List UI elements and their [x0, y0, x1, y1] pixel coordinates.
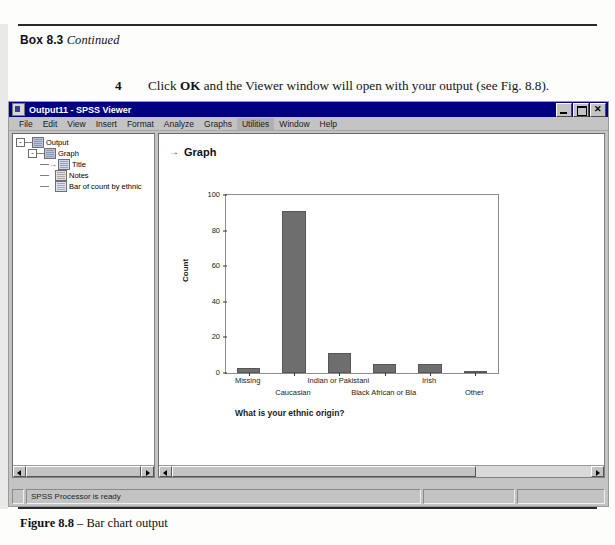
step-text-a: Click: [148, 78, 180, 93]
chart-y-tick: [223, 373, 227, 374]
menu-help[interactable]: Help: [315, 118, 342, 130]
outline-scroll-left-button[interactable]: [13, 466, 26, 477]
minimize-icon: [557, 104, 571, 116]
tree-item-bar-chart[interactable]: Bar of count by ethnic: [16, 181, 152, 192]
tree-item-notes[interactable]: Notes: [16, 170, 152, 181]
chart-y-tick: [223, 230, 227, 231]
chart-y-tick-label: 40: [212, 296, 220, 305]
figure-caption: Figure 8.8 – Bar chart output: [20, 516, 168, 531]
tree-item-title[interactable]: → Title: [16, 159, 152, 170]
box-state: Continued: [67, 33, 120, 47]
close-icon: ✕: [591, 104, 605, 116]
figure-caption-text: – Bar chart output: [74, 516, 168, 530]
step-text-c: and the Viewer window will open with you…: [200, 78, 549, 93]
outline-tree[interactable]: - Output - Graph →: [13, 134, 154, 465]
status-cell-indicator: [12, 489, 24, 504]
output-canvas[interactable]: → Graph Count 020406080100 MissingCaucas…: [159, 134, 604, 465]
status-cell-tertiary: [517, 489, 605, 504]
tree-label-notes: Notes: [69, 171, 89, 180]
outline-pane[interactable]: - Output - Graph →: [12, 133, 155, 478]
title-item-icon: [58, 159, 70, 170]
expander-graph[interactable]: -: [28, 149, 37, 158]
window-titlebar[interactable]: Output11 - SPSS Viewer ✕: [9, 102, 608, 117]
chart-plot-area: [225, 194, 499, 374]
figure-caption-label: Figure 8.8: [20, 516, 74, 530]
graph-book-icon: [44, 148, 56, 159]
chart-x-tick-label: Indian or Pakistani: [307, 376, 369, 385]
viewer-workarea: - Output - Graph →: [12, 133, 605, 478]
menu-edit[interactable]: Edit: [38, 118, 63, 130]
outline-scroll-thumb[interactable]: [26, 466, 141, 477]
tree-item-output[interactable]: - Output: [16, 137, 152, 148]
chart-y-axis-label: Count: [181, 259, 190, 282]
tree-item-graph[interactable]: - Graph: [16, 148, 152, 159]
box-bottom-rule: [18, 507, 597, 509]
menu-bar[interactable]: File Edit View Insert Format Analyze Gra…: [9, 117, 608, 131]
content-scroll-right-button[interactable]: [591, 466, 604, 477]
menu-file[interactable]: File: [14, 118, 38, 130]
chart-x-tick-label: Irish: [422, 376, 436, 385]
chart-x-tick-label: Missing: [235, 376, 260, 385]
window-title: Output11 - SPSS Viewer: [29, 105, 131, 115]
outline-scroll-track[interactable]: [26, 466, 141, 477]
chart-x-tick-label: Other: [465, 388, 484, 397]
menu-insert[interactable]: Insert: [91, 118, 122, 130]
menu-utilities[interactable]: Utilities: [237, 118, 274, 130]
chart-y-tick-label: 80: [212, 225, 220, 234]
bar-chart[interactable]: Count 020406080100 MissingCaucasianIndia…: [179, 186, 509, 436]
menu-analyze[interactable]: Analyze: [159, 118, 199, 130]
graph-heading: → Graph: [169, 146, 216, 158]
chart-x-tick-label: Black African or Bla: [351, 388, 416, 397]
box-label: Box 8.3: [20, 33, 63, 47]
window-controls[interactable]: ✕: [556, 103, 606, 117]
minimize-button[interactable]: [556, 103, 572, 117]
outline-scroll-right-button[interactable]: [141, 466, 154, 477]
tree-connector: [40, 164, 49, 165]
chart-bar: [418, 364, 442, 373]
chart-x-tick: [385, 373, 386, 376]
tree-label-bar-chart: Bar of count by ethnic: [69, 182, 142, 191]
book-page: Box 8.3 Continued 4 Click OK and the Vie…: [0, 0, 615, 545]
chart-bar: [373, 364, 397, 373]
step-text-ok: OK: [180, 78, 201, 93]
chart-y-tick-label: 0: [216, 368, 220, 377]
content-horizontal-scrollbar[interactable]: [159, 465, 604, 477]
page-left-margin-bar: [0, 24, 8, 509]
graph-marker-arrow-icon: →: [169, 147, 179, 157]
chart-x-tick: [294, 373, 295, 376]
close-button[interactable]: ✕: [590, 103, 606, 117]
notes-item-icon: [55, 170, 67, 181]
chart-y-tick-label: 60: [212, 261, 220, 270]
output-folder-icon: [32, 137, 44, 148]
content-pane[interactable]: → Graph Count 020406080100 MissingCaucas…: [158, 133, 605, 478]
chart-bar: [328, 353, 352, 373]
expander-output[interactable]: -: [16, 138, 25, 147]
chart-item-icon: [55, 181, 67, 192]
menu-format[interactable]: Format: [122, 118, 159, 130]
menu-window[interactable]: Window: [274, 118, 314, 130]
content-scroll-track[interactable]: [172, 466, 591, 477]
spss-viewer-icon: [12, 103, 25, 116]
chart-x-tick: [475, 373, 476, 376]
restore-button[interactable]: [573, 103, 589, 117]
menu-graphs[interactable]: Graphs: [199, 118, 237, 130]
content-scroll-thumb[interactable]: [172, 466, 476, 477]
spss-viewer-window[interactable]: Output11 - SPSS Viewer ✕ File Edit View …: [8, 101, 609, 507]
status-bar: SPSS Processor is ready: [12, 489, 605, 503]
step-number: 4: [115, 78, 122, 95]
chart-y-tick: [223, 301, 227, 302]
tree-label-output: Output: [46, 138, 69, 147]
chart-y-tick-label: 20: [212, 332, 220, 341]
box-header: Box 8.3 Continued: [20, 33, 120, 48]
tree-connector: [37, 153, 44, 154]
menu-view[interactable]: View: [62, 118, 90, 130]
chart-y-tick: [223, 266, 227, 267]
content-scroll-left-button[interactable]: [159, 466, 172, 477]
status-cell-secondary: [423, 489, 515, 504]
chart-x-axis-label: What is your ethnic origin?: [235, 408, 345, 418]
step-paragraph: 4 Click OK and the Viewer window will op…: [148, 78, 593, 95]
outline-horizontal-scrollbar[interactable]: [13, 465, 154, 477]
tree-connector: [40, 175, 49, 176]
restore-icon: [574, 104, 588, 116]
tree-label-title: Title: [72, 160, 86, 169]
